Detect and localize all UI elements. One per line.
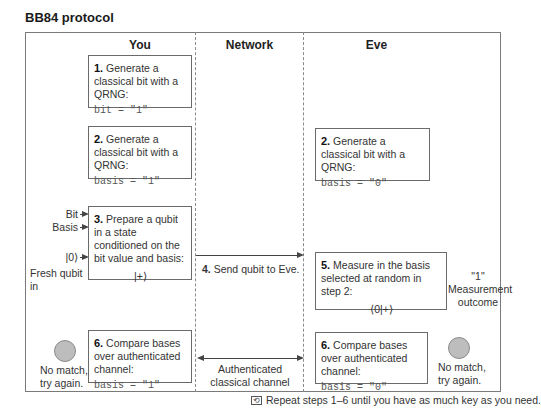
column-header-you: You (88, 38, 192, 52)
step-text: Prepare a qubit in a state conditioned o… (94, 213, 184, 264)
channel-line: Authenticated (196, 363, 304, 376)
step-text: Measure in the basis selected at random … (321, 259, 430, 297)
sad-face-icon (54, 340, 76, 362)
outcome-label: Measurement (448, 283, 508, 296)
you-step6-box: 6. Compare bases over authenticated chan… (88, 330, 192, 383)
you-no-match-label: No match, try again. (40, 364, 90, 390)
classical-channel-arrow (200, 358, 300, 359)
arrowhead-icon (197, 355, 204, 361)
step-number: 2. (321, 135, 330, 147)
step-number: 5. (321, 259, 330, 271)
step-code: basis = "1" (94, 379, 187, 392)
no-match-line: No match, (40, 364, 90, 377)
measurement-outcome: "1" Measurement outcome (448, 270, 508, 309)
lane-divider-network-eve (303, 32, 304, 392)
try-again-line: try again. (438, 374, 498, 387)
no-match-line: No match, (438, 361, 498, 374)
eve-step6-box: 6. Compare bases over authenticated chan… (315, 332, 428, 384)
step-text: Compare bases over authenticated channel… (94, 337, 180, 375)
arrowhead-icon (297, 252, 304, 258)
step-code: basis = "0" (321, 381, 423, 394)
step-number: 4. (202, 263, 211, 275)
you-step2-box: 2. Generate a classical bit with a QRNG:… (88, 126, 192, 179)
step-code: bit = "1" (94, 104, 187, 117)
step-number: 2. (94, 133, 103, 145)
step-number: 6. (94, 337, 103, 349)
outcome-value: "1" (448, 270, 508, 283)
step-number: 1. (94, 62, 103, 74)
lane-divider-you-network (195, 32, 196, 392)
step-number: 6. (321, 339, 330, 351)
channel-line: classical channel (196, 376, 304, 389)
qubit-state: |+⟩ (94, 270, 187, 283)
step-number: 3. (94, 213, 103, 225)
step-code: basis = "1" (94, 175, 187, 188)
eve-no-match-label: No match, try again. (438, 361, 498, 387)
step4-label: 4. Send qubit to Eve. (202, 263, 302, 276)
step-code: basis = "0" (321, 177, 425, 190)
input-label-ket0: |0⟩ (50, 251, 78, 264)
eve-step2-box: 2. Generate a classical bit with a QRNG:… (315, 128, 430, 181)
you-step3-box: 3. Prepare a qubit in a state conditione… (88, 206, 192, 280)
try-again-line: try again. (40, 377, 90, 390)
repeat-note: Repeat steps 1–6 until you have as much … (266, 394, 526, 407)
classical-channel-label: Authenticated classical channel (196, 363, 304, 389)
column-header-network: Network (196, 38, 303, 52)
step-text: Generate a classical bit with a QRNG: (94, 62, 178, 100)
input-label-basis: Basis (40, 221, 78, 234)
sad-face-icon (448, 337, 470, 359)
column-header-eve: Eve (304, 38, 449, 52)
diagram-title: BB84 protocol (25, 10, 114, 25)
you-step1-box: 1. Generate a classical bit with a QRNG:… (88, 55, 192, 108)
repeat-icon: ⟲ (251, 396, 262, 405)
qubit-send-arrow (196, 255, 300, 256)
step-text: Generate a classical bit with a QRNG: (321, 135, 405, 173)
outcome-label: outcome (448, 296, 508, 309)
input-label-bit: Bit (50, 208, 78, 221)
eve-step5-box: 5. Measure in the basis selected at rand… (315, 252, 447, 310)
step-text: Generate a classical bit with a QRNG: (94, 133, 178, 171)
input-label-fresh-qubit: Fresh qubit in (30, 267, 88, 293)
step-text: Compare bases over authenticated channel… (321, 339, 407, 377)
measurement-state: ⟨0|+⟩ (321, 303, 442, 316)
step-text: Send qubit to Eve. (214, 263, 300, 275)
arrowhead-icon (297, 355, 304, 361)
